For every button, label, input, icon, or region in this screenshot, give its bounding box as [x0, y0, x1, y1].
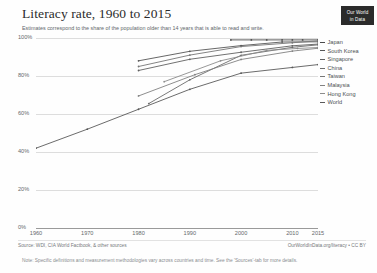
- series-data-point[interactable]: [302, 39, 304, 41]
- series-data-point[interactable]: [86, 128, 88, 130]
- series-data-point[interactable]: [138, 70, 140, 72]
- series-data-point[interactable]: [240, 51, 242, 53]
- x-tick-label: 1990: [184, 230, 196, 236]
- legend-item-label: Japan: [328, 38, 343, 47]
- series-data-point[interactable]: [138, 66, 140, 68]
- legend-item-label: Singapore: [328, 55, 354, 64]
- legend-swatch-icon: [320, 50, 325, 51]
- legend-item-label: World: [328, 98, 343, 107]
- y-tick-label: 60%: [18, 110, 29, 116]
- series-data-point[interactable]: [189, 50, 191, 52]
- series-data-point[interactable]: [291, 39, 293, 41]
- chart-footer: Source: WDI, CIA World Factbook, & other…: [18, 240, 366, 251]
- series-data-point[interactable]: [281, 41, 283, 43]
- y-tick-label: 80%: [18, 72, 29, 78]
- chart-card: Literacy rate, 1960 to 2015 Estimates co…: [0, 0, 377, 273]
- legend-item[interactable]: Malaysia: [320, 81, 377, 90]
- y-gridline-row: 0%: [18, 228, 318, 229]
- series-line[interactable]: [139, 44, 318, 70]
- series-data-point[interactable]: [148, 103, 150, 105]
- legend-item[interactable]: Japan: [320, 38, 377, 47]
- legend-item[interactable]: China: [320, 64, 377, 73]
- logo-line-1: Our World: [347, 9, 369, 16]
- series-data-point[interactable]: [230, 39, 232, 41]
- x-tick-label: 2000: [235, 230, 247, 236]
- series-data-point[interactable]: [189, 79, 191, 81]
- legend-item-label: China: [328, 64, 343, 73]
- series-data-point[interactable]: [297, 48, 299, 50]
- legend-swatch-icon: [320, 102, 325, 103]
- legend-item[interactable]: South Korea: [320, 47, 377, 56]
- series-data-point[interactable]: [240, 59, 242, 61]
- series-data-point[interactable]: [317, 64, 318, 66]
- legend-item[interactable]: Taiwan: [320, 72, 377, 81]
- y-tick-label: 20%: [18, 186, 29, 192]
- legend-item-label: South Korea: [328, 47, 359, 56]
- license-link[interactable]: OurWorldInData.org/literacy • CC BY: [288, 243, 366, 248]
- chart-subtitle: Estimates correspond to the share of the…: [22, 24, 332, 32]
- series-data-point[interactable]: [266, 39, 268, 41]
- x-tick-label: 2015: [312, 230, 324, 236]
- legend-swatch-icon: [320, 93, 325, 94]
- x-tick-label: 1980: [132, 230, 144, 236]
- legend-item-label: Taiwan: [328, 72, 345, 81]
- chart-header: Literacy rate, 1960 to 2015 Estimates co…: [22, 6, 332, 32]
- legend-swatch-icon: [320, 42, 325, 43]
- x-tick-label: 1970: [81, 230, 93, 236]
- series-data-point[interactable]: [138, 108, 140, 110]
- our-world-in-data-logo[interactable]: Our World in Data: [341, 6, 374, 25]
- series-data-point[interactable]: [291, 46, 293, 48]
- logo-line-2: in Data: [350, 16, 365, 23]
- series-data-point[interactable]: [266, 49, 268, 51]
- series-data-point[interactable]: [291, 50, 293, 52]
- note-text: Note: Specific definitions and measureme…: [22, 258, 297, 263]
- series-data-point[interactable]: [281, 39, 283, 41]
- y-tick-label: 40%: [18, 148, 29, 154]
- legend-item-label: Malaysia: [328, 81, 350, 90]
- page-title: Literacy rate, 1960 to 2015: [22, 6, 332, 21]
- y-tick-label: 100%: [18, 34, 32, 40]
- chart-legend: JapanSouth KoreaSingaporeChinaTaiwanMala…: [320, 38, 377, 107]
- legend-swatch-icon: [320, 76, 325, 77]
- series-data-point[interactable]: [189, 88, 191, 90]
- series-data-point[interactable]: [291, 42, 293, 44]
- legend-item-label: Hong Kong: [328, 90, 356, 99]
- series-lines: [36, 38, 318, 228]
- series-data-point[interactable]: [220, 60, 222, 62]
- series-data-point[interactable]: [194, 74, 196, 76]
- legend-item[interactable]: Hong Kong: [320, 90, 377, 99]
- plot-area: 100%80%60%40%20%0% 196019701980199020002…: [18, 38, 318, 228]
- series-data-point[interactable]: [138, 95, 140, 97]
- legend-swatch-icon: [320, 85, 325, 86]
- legend-item[interactable]: Singapore: [320, 55, 377, 64]
- series-data-point[interactable]: [163, 81, 165, 83]
- series-data-point[interactable]: [189, 54, 191, 56]
- legend-swatch-icon: [320, 59, 325, 60]
- series-data-point[interactable]: [138, 60, 140, 62]
- series-data-point[interactable]: [291, 67, 293, 69]
- series-data-point[interactable]: [240, 72, 242, 74]
- series-data-point[interactable]: [189, 58, 191, 60]
- y-gridline: [36, 228, 318, 229]
- legend-swatch-icon: [320, 68, 325, 69]
- legend-item[interactable]: World: [320, 98, 377, 107]
- series-data-point[interactable]: [250, 39, 252, 41]
- y-tick-label: 0%: [18, 224, 26, 230]
- x-tick-label: 2010: [286, 230, 298, 236]
- source-text: Source: WDI, CIA World Factbook, & other…: [18, 243, 127, 248]
- series-data-point[interactable]: [240, 46, 242, 48]
- x-tick-label: 1960: [30, 230, 42, 236]
